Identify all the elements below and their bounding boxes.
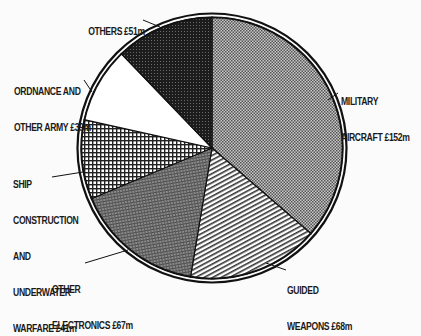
label-ordnance-line1: ORDNANCE AND (14, 85, 91, 97)
label-military-line1: MILITARY (341, 95, 410, 107)
label-electronics: OTHER ELECTRONICS £67m (52, 259, 133, 336)
label-guided-line1: GUIDED (287, 284, 352, 296)
label-others-line1: OTHERS £51m (88, 25, 145, 37)
label-guided: GUIDED WEAPONS £68m (287, 260, 352, 336)
label-ordnance-line2: OTHER ARMY £39m (14, 121, 91, 133)
pie-slices (81, 17, 343, 279)
label-ship-line1: SHIP (13, 178, 78, 190)
label-ordnance: ORDNANCE AND OTHER ARMY £39m (14, 61, 91, 145)
leader-line-others (143, 20, 160, 27)
label-military: MILITARY AIRCRAFT £152m (341, 71, 410, 155)
label-ship-line2: CONSTRUCTION (13, 214, 78, 226)
label-military-line2: AIRCRAFT £152m (341, 131, 410, 143)
label-guided-line2: WEAPONS £68m (287, 320, 352, 332)
label-others: OTHERS £51m (84, 13, 145, 37)
label-electronics-line2: ELECTRONICS £67m (52, 319, 133, 331)
label-electronics-line1: OTHER (52, 283, 133, 295)
